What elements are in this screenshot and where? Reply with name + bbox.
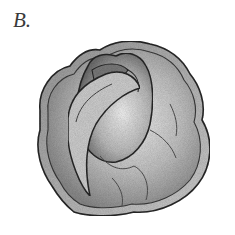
specimen-illustration [0, 0, 235, 235]
